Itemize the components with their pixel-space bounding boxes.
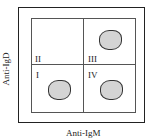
quadrant-label-ii: II: [35, 55, 41, 64]
y-axis-label: Anti-IgD: [1, 49, 11, 89]
horizontal-divider: [31, 64, 136, 65]
population-quadrant-iii: [99, 30, 122, 50]
quadrant-label-i: I: [36, 71, 39, 80]
vertical-divider: [83, 18, 84, 113]
population-quadrant-i: [48, 80, 71, 100]
quadrant-label-iv: IV: [88, 71, 98, 80]
population-quadrant-iv: [100, 80, 123, 100]
quadrant-label-iii: III: [88, 55, 97, 64]
x-axis-label: Anti-IgM: [66, 128, 101, 138]
